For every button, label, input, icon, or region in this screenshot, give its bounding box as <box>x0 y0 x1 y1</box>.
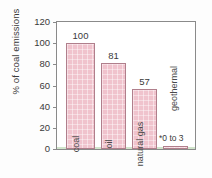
y-tick-label: 80 <box>39 58 50 69</box>
y-tick-label: 60 <box>39 80 50 91</box>
bar-value-coal: 100 <box>73 30 89 41</box>
y-tick-mark <box>53 149 57 150</box>
y-tick-label: 20 <box>39 122 50 133</box>
bar-natural-gas: natural gas <box>132 89 157 149</box>
bar-label-natural-gas: natural gas <box>135 122 145 167</box>
bar-label-oil: oil <box>104 139 114 148</box>
bar-coal: coal <box>66 43 95 149</box>
y-axis-title: % of coal emissions <box>10 0 21 107</box>
plot-area: 120 100 80 60 40 20 0 coal <box>56 21 196 150</box>
bar-label-geothermal: geothermal <box>169 66 179 111</box>
y-tick-mark <box>53 43 57 44</box>
y-tick-label: 40 <box>39 101 50 112</box>
y-tick-mark <box>53 128 57 129</box>
bar-note-geothermal: *0 to 3 <box>159 133 184 143</box>
y-tick-label: 0 <box>45 143 50 154</box>
bar-value-natural-gas: 57 <box>139 76 150 87</box>
y-tick-mark <box>53 64 57 65</box>
y-tick-mark <box>53 107 57 108</box>
y-tick-label: 120 <box>34 16 50 27</box>
bar-label-coal: coal <box>71 136 81 153</box>
bar-chart: % of coal emissions 120 100 80 60 40 20 <box>0 0 212 178</box>
y-tick-mark <box>53 22 57 23</box>
y-tick-label: 100 <box>34 37 50 48</box>
y-tick-120: 120 <box>57 22 195 23</box>
bar-value-oil: 81 <box>108 50 119 61</box>
y-tick-mark <box>53 86 57 87</box>
bar-oil: oil <box>101 63 126 149</box>
bar-geothermal <box>163 146 188 149</box>
